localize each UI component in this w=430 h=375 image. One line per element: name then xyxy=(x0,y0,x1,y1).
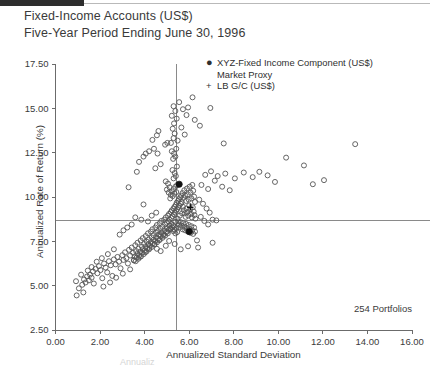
legend-item-xyz: ● XYZ-Fixed Income Component (US$) xyxy=(206,57,373,69)
data-point xyxy=(184,113,189,118)
x-tick-label: 10.00 xyxy=(266,336,290,347)
data-point xyxy=(227,188,232,193)
legend-label-xyz: XYZ-Fixed Income Component (US$) xyxy=(217,57,373,69)
bottom-partial-text: Annualiz xyxy=(120,357,155,367)
data-points xyxy=(74,95,358,298)
data-point xyxy=(171,104,176,109)
data-point xyxy=(178,247,183,252)
data-point xyxy=(353,142,358,147)
data-point xyxy=(206,187,211,192)
data-point xyxy=(81,290,86,295)
data-point xyxy=(208,105,213,110)
data-point xyxy=(156,129,161,134)
data-point xyxy=(212,178,217,183)
data-point xyxy=(220,184,225,189)
portfolio-count-label: 254 Portfolios xyxy=(300,303,412,314)
data-point xyxy=(108,280,113,285)
data-point xyxy=(170,126,175,131)
data-point xyxy=(182,132,187,137)
data-point xyxy=(74,279,79,284)
data-point xyxy=(186,105,191,110)
data-point xyxy=(197,197,202,202)
y-tick-label: 2.50 xyxy=(30,324,49,335)
data-point xyxy=(120,271,125,276)
data-point xyxy=(117,232,122,237)
data-point xyxy=(85,268,90,273)
data-point xyxy=(163,243,168,248)
data-point xyxy=(126,185,131,190)
data-point xyxy=(180,107,185,112)
data-point xyxy=(133,215,138,220)
x-tick-label: 0.00 xyxy=(46,336,65,347)
data-point xyxy=(175,138,180,143)
data-point xyxy=(99,256,104,261)
data-point xyxy=(105,270,110,275)
data-point xyxy=(151,146,156,151)
x-axis-title: Annualized Standard Deviation xyxy=(55,349,412,360)
data-point xyxy=(194,238,199,243)
y-axis-title: Annualized Rate of Return (%) xyxy=(34,102,45,282)
data-point xyxy=(125,261,130,266)
data-point xyxy=(310,182,315,187)
data-point xyxy=(207,210,212,215)
data-point xyxy=(137,159,142,164)
data-point xyxy=(105,252,110,257)
data-point xyxy=(101,284,106,289)
data-point xyxy=(210,240,215,245)
data-point xyxy=(250,175,255,180)
data-point xyxy=(241,170,246,175)
data-point xyxy=(95,271,100,276)
data-point xyxy=(203,172,208,177)
x-tick-label: 4.00 xyxy=(135,336,154,347)
data-point xyxy=(196,245,201,250)
data-point xyxy=(113,262,118,267)
data-point xyxy=(118,266,123,271)
data-point xyxy=(128,267,133,272)
y-tick-label: 5.00 xyxy=(30,280,49,291)
data-point xyxy=(115,254,120,259)
data-point xyxy=(215,174,220,179)
data-point xyxy=(301,163,306,168)
data-point xyxy=(100,276,105,281)
plus-marker-icon: + xyxy=(206,80,217,92)
data-point xyxy=(141,202,146,207)
x-tick-label: 12.00 xyxy=(311,336,335,347)
data-point xyxy=(265,173,270,178)
x-tick-label: 14.00 xyxy=(356,336,380,347)
data-point xyxy=(206,222,211,227)
data-point xyxy=(186,244,191,249)
data-point xyxy=(76,286,81,291)
data-point xyxy=(209,169,214,174)
data-point xyxy=(121,228,126,233)
data-point xyxy=(149,213,154,218)
data-point xyxy=(257,169,262,174)
highlight-marker-filled xyxy=(176,181,182,187)
data-point xyxy=(154,210,159,215)
data-point xyxy=(221,141,226,146)
data-point xyxy=(223,171,228,176)
data-point xyxy=(111,257,116,262)
data-point xyxy=(190,95,195,100)
data-point xyxy=(284,155,289,160)
scatter-chart: 2.505.007.5010.0012.5015.0017.500.002.00… xyxy=(0,0,430,375)
data-point xyxy=(82,277,87,282)
legend-item-market-proxy: Market Proxy xyxy=(206,69,373,81)
x-tick-label: 6.00 xyxy=(180,336,199,347)
data-point xyxy=(129,222,134,227)
data-point xyxy=(192,117,197,122)
data-point xyxy=(169,113,174,118)
data-point xyxy=(134,169,139,174)
data-point xyxy=(199,182,204,187)
y-tick-label: 17.50 xyxy=(25,58,49,69)
data-point xyxy=(232,176,237,181)
data-point xyxy=(153,166,158,171)
data-point xyxy=(79,272,84,277)
data-point xyxy=(150,137,155,142)
x-tick-label: 8.00 xyxy=(225,336,244,347)
axis-lines xyxy=(56,64,413,330)
data-point xyxy=(167,238,172,243)
data-point xyxy=(154,246,159,251)
legend-label-market-proxy: Market Proxy xyxy=(217,69,272,81)
data-point xyxy=(179,125,184,130)
x-tick-label: 2.00 xyxy=(91,336,110,347)
